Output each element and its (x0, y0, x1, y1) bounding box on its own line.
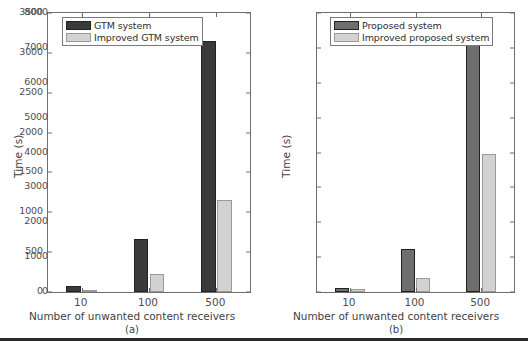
bar (401, 249, 415, 292)
y-tick-mark (48, 132, 52, 133)
y-tick-mark (48, 52, 52, 53)
y-tick-mark (317, 13, 321, 14)
y-tick-mark (48, 92, 52, 93)
x-tick-label: 100 (404, 296, 424, 308)
legend-label: Improved GTM system (94, 32, 199, 43)
y-tick-mark (510, 152, 514, 153)
plot-area-a (47, 12, 251, 293)
y-tick-mark (246, 292, 250, 293)
y-tick-mark (246, 52, 250, 53)
x-tick-label: 10 (342, 296, 355, 308)
y-tick-mark (510, 117, 514, 118)
y-tick-mark (317, 47, 321, 48)
y-tick-mark (317, 117, 321, 118)
y-tick-mark (48, 172, 52, 173)
x-tick-mark (82, 288, 83, 292)
y-tick-label: 1000 (24, 251, 48, 261)
y-tick-label: 2000 (24, 217, 48, 227)
x-tick-mark (481, 288, 482, 292)
panel-label-a: (a) (0, 324, 264, 335)
legend-item: Improved proposed system (334, 32, 489, 43)
y-tick-label: 4000 (24, 147, 48, 157)
bar (335, 288, 349, 292)
y-tick-mark (246, 252, 250, 253)
y-tick-mark (48, 13, 52, 14)
y-tick-mark (317, 82, 321, 83)
y-tick-mark (317, 222, 321, 223)
x-axis-title-a: Number of unwanted content receivers (0, 310, 264, 322)
y-tick-mark (48, 252, 52, 253)
legend-swatch (334, 21, 359, 30)
bar (482, 154, 496, 292)
y-tick-mark (510, 222, 514, 223)
bar (217, 200, 231, 292)
bar (416, 278, 430, 292)
bar (351, 289, 365, 292)
y-tick-label: 7000 (24, 42, 48, 52)
legend-label: Proposed system (362, 20, 442, 31)
y-tick-mark (246, 212, 250, 213)
bar (134, 239, 148, 292)
y-tick-mark (510, 187, 514, 188)
legend-item: GTM system (66, 20, 199, 31)
y-tick-label: 8000 (24, 7, 48, 17)
y-tick-mark (246, 172, 250, 173)
x-tick-mark (350, 288, 351, 292)
x-tick-label: 10 (74, 296, 87, 308)
y-tick-mark (317, 152, 321, 153)
x-tick-mark (216, 288, 217, 292)
legend-item: Improved GTM system (66, 32, 199, 43)
bar (201, 41, 215, 292)
x-tick-label: 500 (205, 296, 225, 308)
bars-layer-a (48, 13, 250, 292)
y-tick-label: 3000 (24, 182, 48, 192)
x-tick-mark (416, 288, 417, 292)
y-tick-mark (510, 47, 514, 48)
y-tick-mark (246, 92, 250, 93)
bars-layer-b (317, 13, 514, 292)
x-tick-label: 500 (470, 296, 490, 308)
y-tick-mark (510, 292, 514, 293)
y-tick-label: 0 (42, 286, 48, 296)
bar (66, 286, 80, 292)
plot-area-b (316, 12, 515, 293)
y-axis-ticks-b: 010002000300040005000600070008000 (4, 12, 48, 293)
y-tick-mark (317, 292, 321, 293)
legend-swatch (334, 33, 359, 42)
y-tick-mark (246, 13, 250, 14)
legend-item: Proposed system (334, 20, 489, 31)
bar (466, 20, 480, 292)
y-tick-mark (317, 257, 321, 258)
legend-label: Improved proposed system (362, 32, 489, 43)
legend-label: GTM system (94, 20, 151, 31)
y-tick-mark (510, 257, 514, 258)
chart-panel-b: 010002000300040005000600070008000 Time (… (264, 0, 528, 341)
x-tick-mark (149, 288, 150, 292)
x-tick-label: 100 (138, 296, 158, 308)
bar (150, 274, 164, 292)
legend-swatch (66, 33, 91, 42)
y-tick-mark (510, 13, 514, 14)
bar (82, 290, 96, 292)
y-tick-mark (48, 212, 52, 213)
figure-canvas: 0500100015002000250030003500 Time (s) 10… (0, 0, 528, 341)
y-tick-label: 6000 (24, 77, 48, 87)
y-tick-mark (510, 82, 514, 83)
x-axis-title-b: Number of unwanted content receivers (264, 310, 528, 322)
y-tick-mark (317, 187, 321, 188)
x-tick-mark (216, 13, 217, 17)
y-axis-title-b: Time (s) (280, 135, 292, 179)
legend-b: Proposed systemImproved proposed system (330, 17, 493, 46)
y-tick-mark (246, 132, 250, 133)
legend-swatch (66, 21, 91, 30)
y-tick-mark (48, 292, 52, 293)
legend-a: GTM systemImproved GTM system (62, 17, 203, 46)
panel-label-b: (b) (264, 324, 528, 335)
y-tick-label: 5000 (24, 112, 48, 122)
